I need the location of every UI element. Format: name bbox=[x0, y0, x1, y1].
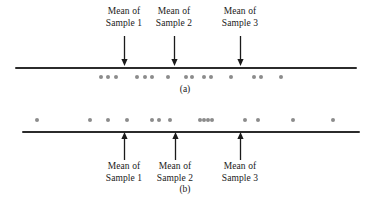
mean-label-b-3: Mean of Sample 3 bbox=[210, 161, 270, 184]
data-point bbox=[168, 118, 172, 122]
mean-label-line1: Mean of bbox=[210, 161, 270, 173]
data-point bbox=[256, 118, 260, 122]
mean-arrow-b-3 bbox=[236, 132, 245, 160]
figure-root: Mean of Sample 1 Mean of Sample 2 Mean o… bbox=[0, 0, 370, 202]
data-point bbox=[125, 118, 129, 122]
data-point bbox=[291, 118, 295, 122]
data-point bbox=[210, 118, 214, 122]
mean-label-b-2: Mean of Sample 2 bbox=[145, 161, 205, 184]
data-point bbox=[150, 118, 154, 122]
mean-arrow-b-2 bbox=[171, 132, 180, 160]
mean-label-line1: Mean of bbox=[145, 161, 205, 173]
mean-arrow-b-1 bbox=[120, 132, 129, 160]
data-point bbox=[88, 118, 92, 122]
data-point bbox=[243, 118, 247, 122]
panel-caption-b: (b) bbox=[0, 184, 370, 194]
data-point bbox=[106, 118, 110, 122]
data-point bbox=[35, 118, 39, 122]
data-point bbox=[331, 118, 335, 122]
mean-label-line2: Sample 2 bbox=[145, 173, 205, 185]
data-point bbox=[157, 118, 161, 122]
number-line-b bbox=[22, 131, 360, 133]
mean-label-line2: Sample 3 bbox=[210, 173, 270, 185]
